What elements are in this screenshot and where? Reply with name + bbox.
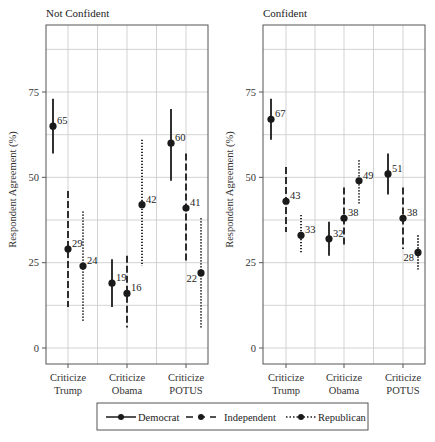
legend: DemocratIndependentRepublican: [97, 403, 368, 430]
data-label: 65: [57, 115, 68, 126]
legend-label: Democrat: [138, 412, 179, 423]
data-label: 28: [404, 252, 415, 263]
data-label: 38: [407, 207, 418, 218]
data-label: 67: [275, 108, 286, 119]
panel-title: Confident: [263, 7, 307, 19]
x-category-label: Criticize: [326, 372, 362, 383]
legend-label: Independent: [224, 412, 276, 423]
x-category-label: Obama: [329, 385, 360, 396]
y-tick-label: 50: [246, 172, 257, 183]
x-category-label: Criticize: [109, 372, 145, 383]
legend-label: Republican: [318, 412, 367, 423]
data-point: [297, 232, 304, 239]
data-label: 38: [348, 207, 359, 218]
data-point: [123, 290, 130, 297]
data-point: [79, 262, 86, 269]
data-point: [340, 215, 347, 222]
data-point: [282, 198, 289, 205]
data-label: 19: [116, 272, 127, 283]
y-tick-label: 0: [34, 343, 39, 354]
data-point: [182, 204, 189, 211]
data-point: [167, 140, 174, 147]
y-axis-title: Respondent Agreement (%): [224, 131, 236, 248]
x-category-label: Criticize: [268, 372, 304, 383]
x-category-label: Criticize: [385, 372, 421, 383]
x-category-label: Trump: [54, 385, 82, 396]
data-label: 16: [131, 282, 142, 293]
series-democrat: 651960: [49, 99, 185, 307]
data-label: 29: [72, 238, 83, 249]
data-point: [138, 201, 145, 208]
panel-confident: Confident0255075Respondent Agreement (%)…: [224, 7, 425, 396]
legend-marker-icon: [298, 414, 304, 420]
data-label: 60: [175, 132, 186, 143]
y-tick-label: 0: [251, 343, 256, 354]
data-label: 22: [187, 273, 198, 284]
data-label: 33: [305, 224, 316, 235]
data-point: [325, 235, 332, 242]
x-category-label: Trump: [272, 385, 300, 396]
y-tick-label: 75: [246, 87, 257, 98]
legend-marker-icon: [198, 414, 204, 420]
data-label: 41: [190, 197, 201, 208]
y-tick-label: 75: [29, 87, 40, 98]
panel-title: Not Confident: [46, 7, 109, 19]
data-label: 43: [290, 190, 301, 201]
data-point: [64, 245, 71, 252]
data-point: [108, 280, 115, 287]
x-category-label: POTUS: [386, 385, 419, 396]
data-point: [197, 269, 204, 276]
y-axis-title: Respondent Agreement (%): [7, 131, 19, 248]
data-point: [384, 170, 391, 177]
data-label: 24: [87, 255, 98, 266]
chart-canvas: Not Confident0255075Respondent Agreement…: [0, 0, 435, 442]
y-tick-label: 25: [246, 257, 257, 268]
data-point: [355, 177, 362, 184]
data-point: [49, 123, 56, 130]
x-category-label: Criticize: [50, 372, 86, 383]
data-point: [267, 116, 274, 123]
data-point: [414, 249, 421, 256]
data-label: 51: [392, 163, 403, 174]
y-tick-label: 50: [29, 172, 40, 183]
data-label: 49: [363, 170, 374, 181]
y-tick-label: 25: [29, 257, 40, 268]
data-label: 42: [146, 194, 157, 205]
panel-not-confident: Not Confident0255075Respondent Agreement…: [7, 7, 208, 396]
x-category-label: Criticize: [168, 372, 204, 383]
x-category-label: Obama: [112, 385, 143, 396]
series-independent: 291641: [64, 153, 200, 327]
x-category-label: POTUS: [169, 385, 202, 396]
data-label: 32: [333, 228, 344, 239]
legend-marker-icon: [118, 414, 124, 420]
data-point: [399, 215, 406, 222]
